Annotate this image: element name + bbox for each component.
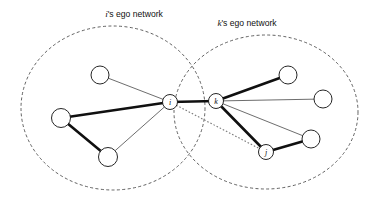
edge-i-j [170,102,266,152]
ego-network-boundary-k [174,35,358,189]
edge-a-i [100,75,170,102]
node-circle-a [91,66,109,84]
node-circle-b [52,109,71,128]
node-circle-f [302,130,320,148]
nodes-layer: ikj [52,66,333,167]
node-circle-d [279,66,297,84]
node-a [91,66,109,84]
edges-layer [61,75,323,157]
ego-network-regions [21,26,358,190]
node-label-k: k [214,97,218,106]
edge-k-j [216,101,266,152]
node-k: k [209,94,224,109]
region-labels-layer: i's ego networkk's ego network [105,9,277,28]
node-i: i [163,95,178,110]
node-circle-e [314,90,332,108]
node-c [99,148,118,167]
edge-k-e [216,99,323,101]
node-label-i: i [169,98,171,107]
edge-k-d [216,75,288,101]
node-circle-c [99,148,118,167]
node-j: j [259,145,274,160]
ego-network-figure: ikj i's ego networkk's ego network [0,0,376,204]
node-b [52,109,71,128]
node-f [302,130,320,148]
region-label-k: k's ego network [217,18,277,28]
node-e [314,90,332,108]
region-label-suffix-i: 's ego network [108,9,164,19]
node-d [279,66,297,84]
region-label-suffix-k: 's ego network [221,18,277,28]
diagram-canvas: ikj i's ego networkk's ego network [0,0,376,204]
region-label-i: i's ego network [105,9,163,19]
edge-b-i [61,102,170,118]
